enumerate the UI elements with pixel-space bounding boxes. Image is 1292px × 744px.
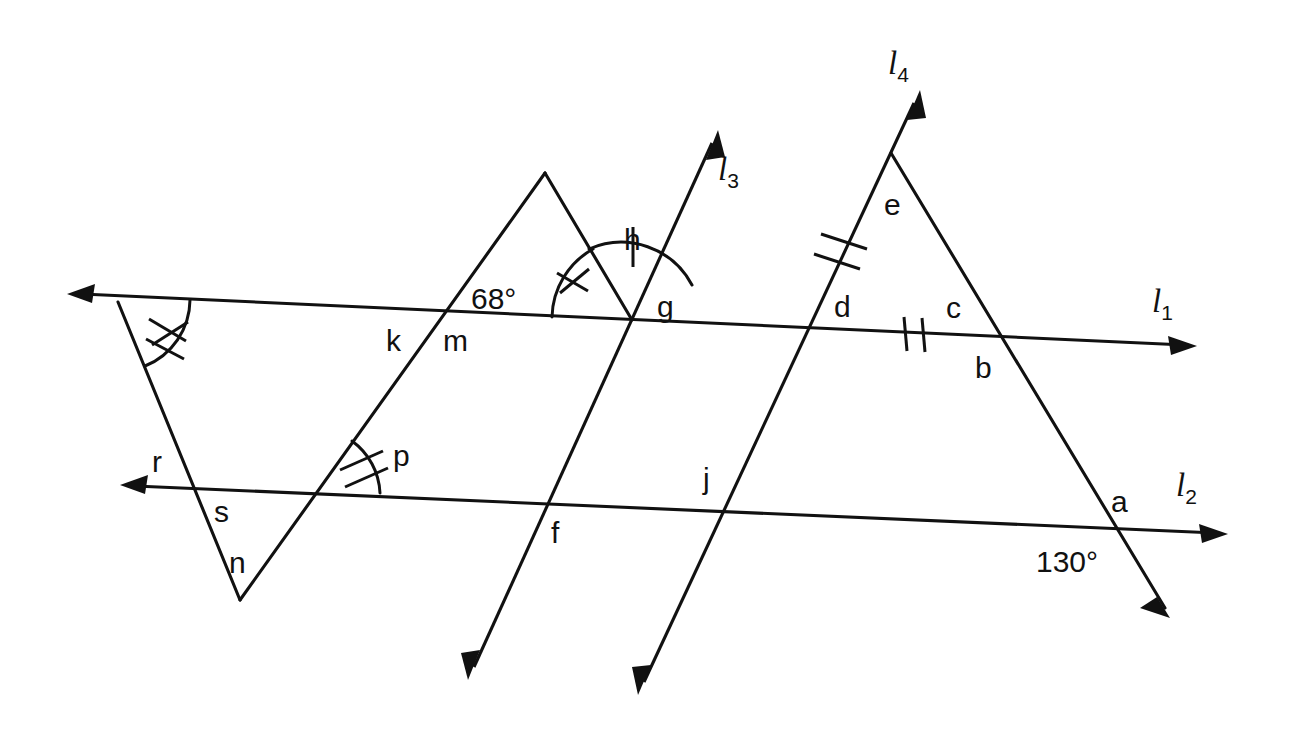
point-label-d: d: [834, 290, 851, 323]
point-label-r: r: [152, 445, 162, 478]
angle-arc-left-vertex: [145, 300, 190, 366]
angle-mark-left-vertex: [145, 300, 190, 366]
point-label-e: e: [884, 188, 901, 221]
angle-tick-p-2: [345, 468, 388, 487]
line-l1-arrowhead-right: [1168, 336, 1197, 355]
line-label-l1-base: l: [1152, 283, 1161, 319]
segment-apex-to-a: [891, 153, 1165, 608]
angle-tick-left-vertex-3: [146, 339, 184, 359]
segment-tick-l1-dc-1: [904, 317, 907, 351]
line-label-l4-sub: 4: [897, 63, 909, 86]
segment-left-up-to-peak: [240, 173, 545, 600]
line-l4-stroke: [644, 103, 914, 682]
point-label-c: c: [946, 291, 961, 324]
point-label-s: s: [214, 495, 229, 528]
line-l4: [632, 90, 926, 695]
line-l2-arrowhead-left: [120, 475, 148, 494]
line-l4-arrowhead-bottom: [632, 665, 651, 695]
segment-tick-de-1: [821, 234, 867, 249]
angle-mark-g: [552, 249, 593, 317]
line-label-l1-sub: 1: [1161, 301, 1173, 324]
right-triangle-segments: [891, 153, 1170, 618]
angle-label-130: 130°: [1036, 545, 1098, 578]
line-label-l2-base: l: [1176, 467, 1185, 503]
line-l3-arrowhead-bottom: [461, 650, 480, 680]
point-label-n: n: [229, 546, 246, 579]
point-label-f: f: [551, 516, 560, 549]
segment-ticks-de: [814, 234, 867, 269]
line-l3: [461, 130, 725, 680]
diagram-canvas: a b c d e f g h j k m n p r s 68° 130° l…: [0, 0, 1292, 744]
segment-peak-down-to-g: [545, 173, 632, 320]
line-label-l2-sub: 2: [1185, 485, 1197, 508]
point-label-b: b: [975, 351, 992, 384]
line-label-l1: l1: [1152, 283, 1173, 324]
geometry-diagram: a b c d e f g h j k m n p r s 68° 130° l…: [0, 0, 1292, 744]
line-label-l2: l2: [1176, 467, 1197, 508]
line-label-l3: l3: [718, 151, 739, 192]
point-label-k: k: [386, 324, 402, 357]
segment-ticks-l1-dc: [904, 317, 925, 352]
angle-label-68: 68°: [471, 282, 516, 315]
point-label-m: m: [443, 324, 468, 357]
line-l1-arrowhead-left: [67, 284, 95, 303]
line-l4-arrowhead-top: [907, 90, 926, 120]
segment-left-down: [118, 302, 240, 600]
line-l2-stroke: [135, 486, 1216, 533]
angle-tick-p-1: [340, 451, 383, 470]
point-label-h: h: [624, 223, 641, 256]
line-l2-arrowhead-right: [1199, 524, 1228, 543]
segment-tick-l1-dc-2: [922, 318, 925, 352]
line-label-l3-base: l: [718, 151, 727, 187]
point-label-p: p: [393, 439, 410, 472]
line-label-l4-base: l: [888, 45, 897, 81]
line-label-l3-sub: 3: [727, 169, 739, 192]
line-label-l4: l4: [888, 45, 909, 86]
angle-arc-p: [352, 441, 380, 493]
point-label-a: a: [1111, 485, 1128, 518]
point-label-g: g: [657, 290, 674, 323]
point-label-j: j: [702, 462, 710, 495]
angle-tick-left-vertex-1: [149, 319, 186, 341]
